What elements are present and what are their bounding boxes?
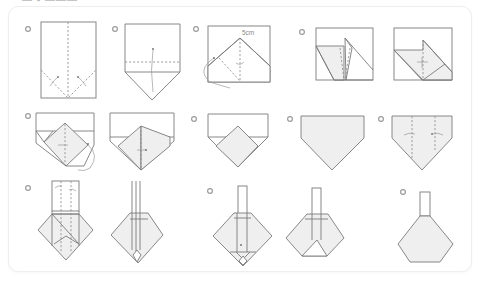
step-9-panel bbox=[26, 181, 93, 260]
step-number-marker bbox=[113, 27, 118, 32]
step-number-marker bbox=[26, 186, 31, 191]
step-9b-panel bbox=[111, 181, 163, 263]
step-5-panel bbox=[26, 113, 95, 171]
step-4b-panel bbox=[394, 28, 452, 80]
step-8-panel bbox=[379, 116, 452, 170]
step-10b-panel bbox=[286, 188, 344, 256]
measurement-label: 5cm bbox=[242, 29, 254, 36]
step-number-marker bbox=[192, 117, 197, 122]
step-10-panel bbox=[208, 186, 272, 266]
step-3-panel: 5cm bbox=[194, 26, 270, 88]
step-number-marker bbox=[194, 27, 199, 32]
step-2-panel bbox=[113, 24, 180, 100]
step-4-panel bbox=[300, 28, 373, 80]
step-number-marker bbox=[288, 117, 293, 122]
step-1-panel bbox=[26, 22, 96, 98]
step-number-marker bbox=[208, 189, 213, 194]
step-number-marker bbox=[300, 30, 305, 35]
step-6-panel bbox=[192, 114, 268, 167]
step-11-panel bbox=[398, 190, 453, 262]
step-5b-panel bbox=[110, 113, 174, 170]
step-number-marker bbox=[26, 114, 31, 119]
step-7-panel bbox=[288, 116, 364, 170]
step-number-marker bbox=[379, 117, 384, 122]
origami-instructions: 5cm bbox=[0, 0, 479, 289]
step-number-marker bbox=[401, 190, 406, 195]
step-number-marker bbox=[26, 27, 31, 32]
